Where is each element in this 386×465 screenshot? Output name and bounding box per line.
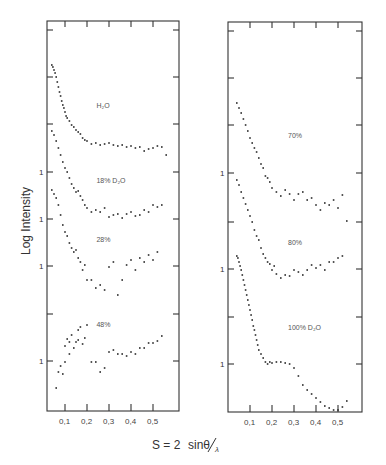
- data-point: [320, 264, 322, 266]
- data-point: [62, 224, 64, 226]
- data-point: [95, 361, 97, 363]
- data-point: [342, 406, 344, 408]
- data-point: [236, 255, 238, 257]
- data-point: [130, 145, 132, 147]
- data-point: [84, 204, 86, 206]
- data-point: [269, 263, 271, 265]
- series-label: 70%: [288, 132, 302, 139]
- data-point: [104, 207, 106, 209]
- data-point: [254, 329, 256, 331]
- data-point: [61, 100, 63, 102]
- data-point: [298, 193, 300, 195]
- data-point: [86, 324, 88, 326]
- data-point: [143, 150, 145, 152]
- series-label: 100% D₂O: [288, 324, 322, 331]
- data-point: [86, 140, 88, 142]
- data-point: [104, 289, 106, 291]
- data-point: [108, 266, 110, 268]
- data-point: [328, 204, 330, 206]
- right-panel-series-labels: 70%80%100% D₂O: [288, 132, 322, 331]
- x-axis-title-main: S = 2: [152, 438, 181, 452]
- data-point: [255, 334, 257, 336]
- data-point: [66, 235, 68, 237]
- figure: 0,10,20,30,40,51111 H₂O18% D₂O28%48% 0,1…: [0, 0, 386, 465]
- data-point: [257, 344, 259, 346]
- right-panel: 0,10,20,30,40,5111 70%80%100% D₂O: [220, 22, 362, 427]
- data-point: [104, 367, 106, 369]
- left-panel: 0,10,20,30,40,51111 H₂O18% D₂O28%48%: [39, 21, 179, 426]
- data-point: [267, 177, 269, 179]
- data-point: [75, 249, 77, 251]
- data-point: [238, 184, 240, 186]
- data-point: [135, 353, 137, 355]
- data-point: [258, 157, 260, 159]
- data-point: [328, 407, 330, 409]
- data-point: [165, 154, 167, 156]
- data-point: [262, 357, 264, 359]
- data-point: [51, 130, 53, 132]
- data-point: [80, 326, 82, 328]
- data-point: [113, 214, 115, 216]
- data-point: [311, 197, 313, 199]
- data-point: [139, 347, 141, 349]
- data-point: [152, 204, 154, 206]
- data-point: [99, 211, 101, 213]
- data-point: [84, 139, 86, 141]
- y-tick-label: 1: [39, 168, 44, 177]
- data-point: [289, 275, 291, 277]
- data-point: [273, 265, 275, 267]
- left-panel-frame: [47, 21, 179, 411]
- data-point: [126, 264, 128, 266]
- data-point: [66, 117, 68, 119]
- left-panel-points: [51, 64, 167, 389]
- data-point: [280, 195, 282, 197]
- data-point: [337, 257, 339, 259]
- x-tick-label: 0,1: [244, 418, 256, 427]
- data-point: [77, 329, 79, 331]
- data-point: [247, 130, 249, 132]
- data-point: [276, 361, 278, 363]
- data-point: [77, 257, 79, 259]
- data-point: [161, 204, 163, 206]
- data-point: [135, 215, 137, 217]
- data-point: [256, 339, 258, 341]
- data-point: [91, 211, 93, 213]
- data-point: [117, 294, 119, 296]
- data-point: [152, 259, 154, 261]
- data-point: [52, 66, 54, 68]
- data-point: [71, 183, 73, 185]
- data-point: [260, 163, 262, 165]
- x-tick-label: 0,5: [332, 418, 344, 427]
- data-point: [271, 362, 273, 364]
- data-point: [80, 261, 82, 263]
- data-point: [84, 264, 86, 266]
- right-panel-frame: [228, 22, 362, 412]
- data-point: [82, 343, 84, 345]
- data-point: [320, 401, 322, 403]
- data-point: [254, 229, 256, 231]
- data-point: [99, 371, 101, 373]
- x-tick-label: 0,5: [147, 417, 159, 426]
- data-point: [243, 197, 245, 199]
- data-point: [333, 409, 335, 411]
- data-point: [59, 91, 61, 93]
- data-point: [82, 269, 84, 271]
- data-point: [64, 167, 66, 169]
- x-tick-label: 0,2: [81, 417, 93, 426]
- data-point: [95, 287, 97, 289]
- x-tick-label: 0,2: [266, 418, 278, 427]
- data-point: [245, 203, 247, 205]
- data-point: [62, 104, 64, 106]
- series-label: 18% D₂O: [96, 177, 126, 184]
- data-point: [246, 294, 248, 296]
- data-point: [260, 247, 262, 249]
- right-panel-points: [236, 102, 348, 411]
- data-point: [315, 267, 317, 269]
- data-point: [75, 191, 77, 193]
- data-point: [91, 361, 93, 363]
- data-point: [269, 361, 271, 363]
- data-point: [324, 405, 326, 407]
- y-tick-label: 1: [39, 215, 44, 224]
- data-point: [315, 204, 317, 206]
- data-point: [320, 209, 322, 211]
